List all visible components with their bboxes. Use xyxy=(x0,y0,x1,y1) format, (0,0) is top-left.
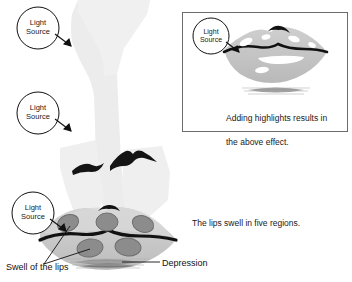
light-source-arrows xyxy=(50,34,239,231)
five-regions-note: The lips swell in five regions. xyxy=(192,218,300,228)
light-source-label-bottom-line2: Source xyxy=(11,213,55,222)
light-source-label-inset-line1: Light xyxy=(189,28,233,36)
light-source-label-inset-line2: Source xyxy=(189,36,233,44)
light-source-label-top: Light Source xyxy=(16,19,60,36)
light-source-label-middle: Light Source xyxy=(16,104,60,121)
inset-caption-line1: Adding highlights results in xyxy=(226,112,327,124)
depression-label: Depression xyxy=(162,258,208,268)
inset-caption-line2: the above effect. xyxy=(226,136,327,148)
light-source-label-middle-line2: Source xyxy=(16,113,60,122)
light-source-label-top-line2: Source xyxy=(16,28,60,37)
light-source-label-bottom: Light Source xyxy=(11,204,55,221)
swell-of-lips-label: Swell of the lips xyxy=(6,262,69,272)
light-source-label-inset: Light Source xyxy=(189,28,233,44)
lip-shading-diagram: Light Source Light Source Light Source L… xyxy=(0,0,352,282)
inset-caption: Adding highlights results in the above e… xyxy=(226,100,327,160)
